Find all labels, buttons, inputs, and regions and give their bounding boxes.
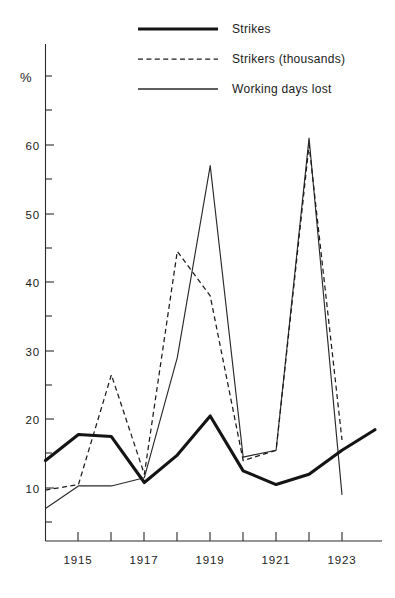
legend-item-strikers: Strikers (thousands) <box>138 52 345 66</box>
strike-statistics-line-chart: Strikes Strikers (thousands) Working day… <box>0 0 395 598</box>
x-tick-label-1917: 1917 <box>130 554 159 566</box>
chart-legend: Strikes Strikers (thousands) Working day… <box>138 22 345 96</box>
series-group <box>46 138 375 508</box>
series-line-strikers <box>46 145 343 490</box>
y-axis: 60 50 40 30 20 10 % <box>20 44 54 541</box>
y-tick-label-10: 10 <box>26 483 40 495</box>
y-tick-label-40: 40 <box>26 277 40 289</box>
y-tick-label-50: 50 <box>26 209 40 221</box>
series-line-working-days-lost <box>46 138 343 508</box>
legend-label-working-days-lost: Working days lost <box>232 82 332 96</box>
y-tick-label-30: 30 <box>26 346 40 358</box>
x-tick-label-1915: 1915 <box>64 554 93 566</box>
y-axis-title: % <box>20 70 32 85</box>
legend-label-strikers: Strikers (thousands) <box>232 52 345 66</box>
x-tick-label-1919: 1919 <box>196 554 225 566</box>
x-tick-label-1923: 1923 <box>328 554 357 566</box>
legend-item-working-days-lost: Working days lost <box>138 82 332 96</box>
x-tick-label-1921: 1921 <box>262 554 291 566</box>
chart-canvas: Strikes Strikers (thousands) Working day… <box>0 0 395 598</box>
legend-label-strikes: Strikes <box>232 22 271 36</box>
y-tick-label-60: 60 <box>26 140 40 152</box>
series-line-strikes <box>46 416 375 485</box>
legend-item-strikes: Strikes <box>138 22 271 36</box>
y-tick-label-20: 20 <box>26 414 40 426</box>
x-axis: 1915 1917 1919 1921 1923 <box>46 532 383 566</box>
